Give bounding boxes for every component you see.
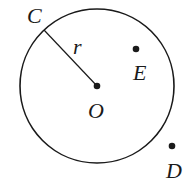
point-o-dot	[94, 83, 101, 90]
label-r: r	[73, 34, 82, 59]
label-d: D	[165, 158, 182, 183]
label-e: E	[132, 60, 147, 85]
label-o: O	[88, 98, 104, 123]
circle-diagram: C r O E D	[0, 0, 191, 191]
point-d-dot	[169, 143, 176, 150]
point-e-dot	[133, 46, 140, 53]
radius-segment-co	[44, 30, 97, 86]
label-c: C	[27, 3, 42, 28]
